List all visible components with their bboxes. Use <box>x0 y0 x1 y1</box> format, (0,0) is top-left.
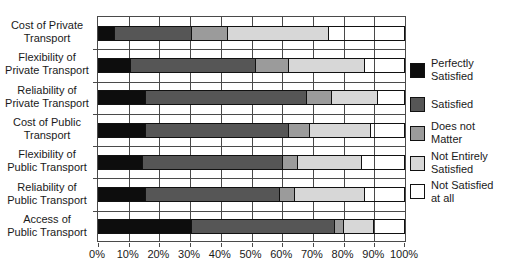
legend-label-line: Not Entirely <box>431 150 488 163</box>
legend-label-line: Satisfied <box>431 163 488 176</box>
bar-row <box>98 219 405 234</box>
category-label-line: Public Transport <box>0 226 94 239</box>
bar-row <box>98 123 405 138</box>
category-label-line: Reliability of <box>0 84 94 97</box>
bar-segment <box>145 124 288 137</box>
horizontal-gridline <box>98 178 405 179</box>
category-label: Reliability ofPublic Transport <box>0 181 94 207</box>
category-label-line: Transport <box>0 129 94 142</box>
bar-segment <box>145 91 307 104</box>
bar-segment <box>99 27 114 40</box>
legend-item: Not EntirelySatisfied <box>410 149 488 177</box>
x-axis-tick <box>159 243 160 247</box>
legend-label: Satisfied <box>431 98 473 111</box>
bar-segment <box>99 156 142 169</box>
bar-segment <box>130 59 255 72</box>
bar-segment <box>99 124 145 137</box>
bar-row <box>98 58 405 73</box>
legend-item: PerfectlySatisfied <box>410 56 474 84</box>
horizontal-gridline <box>98 211 405 212</box>
bar-segment <box>99 91 145 104</box>
bar-row <box>98 155 405 170</box>
y-axis-tick <box>93 114 97 115</box>
category-label: Access ofPublic Transport <box>0 213 94 239</box>
bar-segment <box>297 156 361 169</box>
bar-segment <box>328 27 404 40</box>
bar-segment <box>99 59 130 72</box>
legend-label-line: Perfectly <box>431 57 474 70</box>
category-label-line: Reliability of <box>0 181 94 194</box>
bar-segment <box>255 59 289 72</box>
bar-segment <box>309 124 370 137</box>
category-label: Flexibility ofPrivate Transport <box>0 51 94 77</box>
bar-segment <box>361 156 404 169</box>
category-label-line: Transport <box>0 32 94 45</box>
category-label-line: Flexibility of <box>0 148 94 161</box>
legend-swatch <box>410 97 425 112</box>
legend-label-line: Not Satisfied <box>431 179 493 192</box>
bar-segment <box>294 188 364 201</box>
horizontal-gridline <box>98 114 405 115</box>
x-axis-tick <box>404 243 405 247</box>
bar-row <box>98 187 405 202</box>
bar-segment <box>377 91 404 104</box>
bar-segment <box>114 27 190 40</box>
bar-segment <box>370 124 404 137</box>
x-axis-tick <box>282 243 283 247</box>
bar-segment <box>331 91 377 104</box>
legend-label-line: Does not <box>431 120 475 133</box>
horizontal-gridline <box>98 146 405 147</box>
transport-satisfaction-stacked-bar-chart: Cost of PrivateTransportFlexibility ofPr… <box>0 0 508 270</box>
bar-segment <box>288 59 364 72</box>
category-label-line: Public Transport <box>0 194 94 207</box>
legend-label-line: Satisfied <box>431 98 473 111</box>
legend-label-line: at all <box>431 192 493 205</box>
plot-area <box>97 16 406 242</box>
bar-segment <box>282 156 297 169</box>
x-axis-tick <box>374 243 375 247</box>
legend-swatch <box>410 126 425 141</box>
bar-segment <box>191 27 228 40</box>
category-label-line: Private Transport <box>0 97 94 110</box>
category-label-line: Public Transport <box>0 161 94 174</box>
bar-segment <box>191 220 334 233</box>
bar-segment <box>364 188 404 201</box>
category-label: Flexibility ofPublic Transport <box>0 148 94 174</box>
bar-segment <box>99 220 191 233</box>
category-label-line: Access of <box>0 213 94 226</box>
y-axis-tick <box>93 211 97 212</box>
legend-swatch <box>410 156 425 171</box>
category-label-line: Private Transport <box>0 64 94 77</box>
x-axis-tick <box>190 243 191 247</box>
legend-item: Not Satisfiedat all <box>410 178 493 206</box>
legend-label-line: Satisfied <box>431 70 474 83</box>
bar-segment <box>364 59 404 72</box>
category-label: Cost of PublicTransport <box>0 116 94 142</box>
horizontal-gridline <box>98 49 405 50</box>
y-axis-tick <box>93 178 97 179</box>
legend-label-line: Matter <box>431 133 475 146</box>
bar-segment <box>99 188 145 201</box>
legend-label: Not EntirelySatisfied <box>431 150 488 176</box>
y-axis-tick <box>93 146 97 147</box>
bar-segment <box>334 220 343 233</box>
category-label: Reliability ofPrivate Transport <box>0 84 94 110</box>
legend-label: Does notMatter <box>431 120 475 146</box>
bar-segment <box>227 27 328 40</box>
x-axis-tick <box>221 243 222 247</box>
category-label-line: Cost of Public <box>0 116 94 129</box>
bar-segment <box>288 124 309 137</box>
y-axis-tick <box>93 49 97 50</box>
bar-row <box>98 26 405 41</box>
bar-segment <box>279 188 294 201</box>
legend: PerfectlySatisfiedSatisfiedDoes notMatte… <box>410 0 508 270</box>
bar-segment <box>373 220 404 233</box>
legend-swatch <box>410 184 425 199</box>
category-label-line: Flexibility of <box>0 51 94 64</box>
bar-segment <box>343 220 374 233</box>
bar-segment <box>142 156 282 169</box>
legend-item: Satisfied <box>410 90 473 118</box>
x-axis-tick <box>252 243 253 247</box>
y-axis-tick <box>93 82 97 83</box>
bar-row <box>98 90 405 105</box>
